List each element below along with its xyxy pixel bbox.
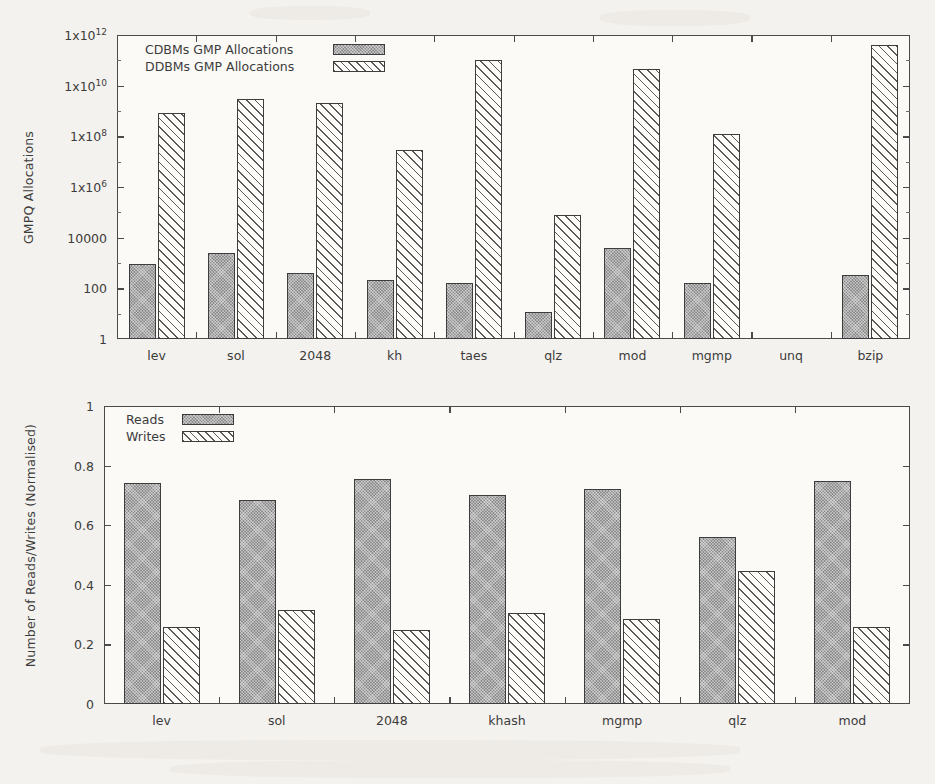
bar-sol-ddbms-gmp-allocations (237, 99, 264, 339)
bar-sol-cdbms-gmp-allocations (208, 253, 235, 339)
y-axis-label-top: GMPQ Allocations (21, 113, 36, 263)
bar-mgmp-writes (623, 619, 660, 704)
y-tick-mark (903, 585, 910, 586)
y-tick-mark (903, 187, 910, 188)
y-tick-label: 1x1012 (64, 27, 107, 43)
bar-kh-cdbms-gmp-allocations (367, 280, 394, 339)
bar-qlz-writes (738, 571, 775, 704)
y-tick-label: 10000 (67, 230, 107, 245)
legend-swatch-writes (182, 431, 234, 442)
plot-area-bottom (104, 406, 910, 704)
x-tick-mark (514, 35, 515, 42)
y-tick-minor (117, 263, 121, 264)
bar-kh-ddbms-gmp-allocations (396, 150, 423, 339)
y-tick-mark (104, 466, 111, 467)
bar-2048-reads (354, 479, 391, 704)
bar-lev-writes (163, 627, 200, 704)
x-tick-mark (751, 35, 752, 42)
x-tick-mark (831, 35, 832, 42)
x-tick-mark (355, 332, 356, 339)
y-tick-label: 0.4 (74, 577, 94, 592)
legend-label-ddbms: DDBMs GMP Allocations (145, 59, 333, 74)
legend-bottom: Reads Writes (126, 411, 234, 445)
x-tick-label-bzip: bzip (857, 348, 883, 363)
bar-qlz-cdbms-gmp-allocations (525, 312, 552, 339)
bar-mgmp-cdbms-gmp-allocations (684, 283, 711, 339)
bar-2048-cdbms-gmp-allocations (287, 273, 314, 339)
bar-bzip-ddbms-gmp-allocations (871, 45, 898, 339)
x-tick-mark (219, 406, 220, 413)
x-tick-mark (593, 332, 594, 339)
y-tick-mark (117, 288, 124, 289)
legend-swatch-cdbms (333, 44, 385, 55)
x-tick-mark (795, 406, 796, 413)
x-tick-label-kh: kh (387, 348, 402, 363)
x-tick-label-lev: lev (147, 348, 166, 363)
bar-2048-ddbms-gmp-allocations (316, 103, 343, 339)
y-tick-label: 1x1010 (64, 78, 107, 94)
y-tick-minor (906, 263, 910, 264)
x-tick-mark (795, 697, 796, 704)
x-tick-mark (565, 697, 566, 704)
y-tick-mark (117, 187, 124, 188)
bar-mgmp-ddbms-gmp-allocations (713, 134, 740, 339)
x-tick-mark (334, 697, 335, 704)
x-tick-mark (434, 35, 435, 42)
x-tick-mark (672, 332, 673, 339)
legend-item-writes: Writes (126, 428, 234, 445)
bar-sol-reads (239, 500, 276, 704)
x-tick-mark (449, 406, 450, 413)
plot-area-top (117, 35, 910, 339)
y-tick-minor (906, 111, 910, 112)
bar-qlz-ddbms-gmp-allocations (554, 215, 581, 339)
y-tick-mark (903, 136, 910, 137)
y-tick-mark (117, 238, 124, 239)
bar-qlz-reads (699, 537, 736, 704)
legend-label-writes: Writes (126, 429, 182, 444)
x-tick-label-mod: mod (619, 348, 647, 363)
bar-lev-ddbms-gmp-allocations (158, 113, 185, 339)
x-tick-label-2048: 2048 (299, 348, 331, 363)
x-tick-mark (276, 332, 277, 339)
x-tick-label-mgmp: mgmp (602, 713, 642, 728)
y-tick-minor (117, 111, 121, 112)
bar-bzip-cdbms-gmp-allocations (842, 275, 869, 339)
bar-lev-reads (124, 483, 161, 704)
legend-item-ddbms: DDBMs GMP Allocations (145, 58, 385, 75)
bar-mgmp-reads (584, 489, 621, 704)
x-tick-mark (276, 35, 277, 42)
y-tick-mark (903, 525, 910, 526)
x-tick-mark (751, 332, 752, 339)
y-tick-mark (903, 288, 910, 289)
legend-top: CDBMs GMP Allocations DDBMs GMP Allocati… (145, 41, 385, 75)
bar-mod-cdbms-gmp-allocations (604, 248, 631, 339)
bar-taes-cdbms-gmp-allocations (446, 283, 473, 339)
x-tick-mark (680, 406, 681, 413)
x-tick-mark (514, 332, 515, 339)
y-tick-label: 0.6 (74, 518, 94, 533)
y-tick-minor (906, 212, 910, 213)
legend-item-reads: Reads (126, 411, 234, 428)
x-tick-mark (434, 332, 435, 339)
x-tick-mark (219, 697, 220, 704)
x-tick-mark (196, 35, 197, 42)
gmpq-allocations-chart: GMPQ Allocations CDBMs GMP Allocations D… (0, 0, 935, 390)
legend-label-reads: Reads (126, 412, 182, 427)
y-tick-mark (117, 136, 124, 137)
x-tick-label-khash: khash (488, 713, 525, 728)
y-tick-label: 1 (99, 332, 107, 347)
x-tick-label-sol: sol (227, 348, 245, 363)
y-tick-minor (906, 314, 910, 315)
bar-khash-writes (508, 613, 545, 704)
y-tick-mark (104, 585, 111, 586)
y-tick-label: 100 (83, 281, 107, 296)
y-tick-label: 0 (86, 697, 94, 712)
y-tick-label: 1 (86, 399, 94, 414)
bar-sol-writes (278, 610, 315, 704)
y-tick-minor (906, 60, 910, 61)
x-tick-mark (565, 406, 566, 413)
legend-label-cdbms: CDBMs GMP Allocations (145, 42, 333, 57)
y-tick-mark (903, 466, 910, 467)
x-tick-label-mod: mod (839, 713, 867, 728)
y-axis-label-bottom: Number of Reads/Writes (Normalised) (23, 411, 38, 681)
